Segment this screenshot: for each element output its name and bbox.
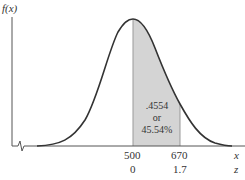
probability-value: .4554	[136, 100, 178, 112]
z-axis-label: z	[234, 164, 238, 175]
x-tick-500: 500	[124, 150, 141, 161]
x-tick-670: 670	[171, 150, 188, 161]
z-tick-1-7: 1.7	[173, 164, 187, 175]
normal-curve-plot	[0, 0, 245, 180]
or-text: or	[136, 112, 178, 124]
x-axis-label: x	[234, 150, 239, 161]
area-annotation: .4554 or 45.54%	[136, 100, 178, 136]
z-tick-0: 0	[130, 164, 136, 175]
percentage-value: 45.54%	[136, 124, 178, 136]
y-axis-label: f(x)	[2, 3, 17, 14]
